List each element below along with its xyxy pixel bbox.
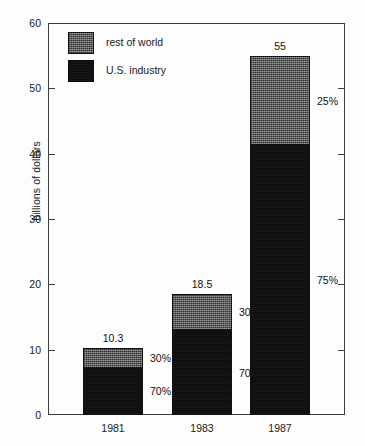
bar-segment-rest-of-world[interactable] [251,57,309,147]
bar-segment-rest-of-world[interactable] [84,349,142,369]
x-tick-label: 1981 [83,422,143,434]
legend-item[interactable]: U.S. industry [68,60,228,88]
legend-item[interactable]: rest of world [68,32,228,60]
legend-item-label: rest of world [106,36,163,48]
y-tick-mark-right [338,88,345,89]
y-tick-mark-left [48,219,55,220]
segment-percent-label-rest-of-world: 30% [150,352,171,364]
y-tick-mark-left [48,350,55,351]
y-tick-mark-left [48,88,55,89]
y-tick-label: 40 [0,148,41,160]
y-tick-mark-left [48,284,55,285]
chart-legend: rest of worldU.S. industry [68,32,228,88]
bar-segment-us-industry[interactable] [251,144,309,414]
stacked-bar[interactable] [250,56,310,415]
stacked-bar[interactable] [172,294,232,415]
bar-total-label: 10.3 [103,332,123,344]
x-tick-label: 1983 [172,422,232,434]
bar-segment-rest-of-world[interactable] [173,295,231,331]
y-tick-mark-right [338,284,345,285]
legend-item-label: U.S. industry [106,64,166,76]
segment-percent-label-us-industry: 70% [150,385,171,397]
y-tick-label: 30 [0,213,41,225]
y-axis-title: billions of dollars [30,101,42,261]
y-tick-label: 10 [0,344,41,356]
y-tick-mark-right [338,219,345,220]
bar-segment-us-industry[interactable] [84,367,142,414]
gray-hatched-swatch [68,32,94,54]
stacked-bar[interactable] [83,348,143,415]
y-tick-label: 0 [0,409,41,421]
chart-figure: billions of dollars 0102030405060 10.330… [0,0,365,446]
y-tick-label: 60 [0,17,41,29]
x-tick-label: 1987 [250,422,310,434]
y-tick-mark-right [338,154,345,155]
bar-group[interactable] [172,294,232,415]
bar-group[interactable] [250,56,310,415]
black-swatch [68,60,94,82]
bar-total-label: 55 [274,40,286,52]
bar-group[interactable] [83,348,143,415]
segment-percent-label-us-industry: 75% [317,274,338,286]
bar-total-label: 18.5 [192,278,212,290]
y-tick-mark-left [48,154,55,155]
bar-segment-us-industry[interactable] [173,329,231,414]
y-tick-mark-right [338,350,345,351]
segment-percent-label-rest-of-world: 25% [317,95,338,107]
y-tick-label: 50 [0,82,41,94]
y-tick-label: 20 [0,278,41,290]
